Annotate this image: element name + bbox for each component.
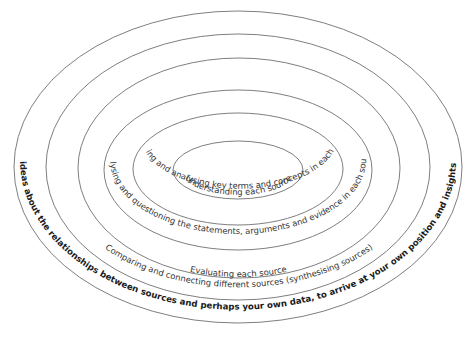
ring-6-label: Using your ideas about the relationships… [0, 0, 458, 312]
ring-6-label-text: Using your ideas about the relationships… [0, 0, 458, 312]
ring-3-label: Analysing and questioning the statements… [0, 0, 368, 236]
ring-5-outline [46, 34, 430, 300]
ring-4-label-text: Evaluating each source [189, 264, 287, 279]
ring-labels: Understanding each source Identifying an… [0, 0, 458, 312]
ring-4-outline [78, 58, 400, 278]
ring-3-outline [104, 90, 372, 250]
concentric-ellipse-diagram: Understanding each source Identifying an… [0, 0, 475, 344]
ring-3-label-text: Analysing and questioning the statements… [0, 0, 368, 236]
ring-4-label: Evaluating each source [189, 264, 287, 279]
